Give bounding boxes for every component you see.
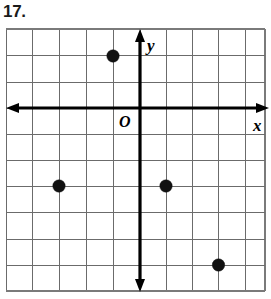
data-point <box>53 180 65 192</box>
origin-label: O <box>119 113 131 130</box>
data-point <box>160 180 172 192</box>
coordinate-graph: y x O <box>0 0 271 299</box>
x-axis-label: x <box>252 116 262 135</box>
data-point <box>107 50 119 62</box>
y-axis-label: y <box>145 36 155 55</box>
graph-svg: y x O <box>0 0 271 299</box>
data-point <box>212 259 224 271</box>
